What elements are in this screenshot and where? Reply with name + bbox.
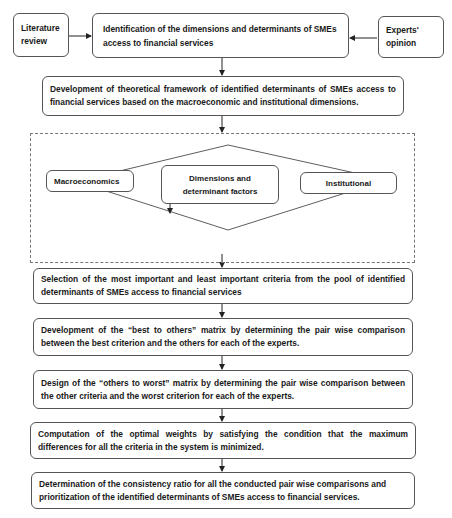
literature-review-label: Literature review: [21, 22, 61, 48]
institutional-box: Institutional: [300, 172, 397, 194]
experts-opinion-box: Experts' opinion: [378, 16, 444, 58]
macroeconomics-box: Macroeconomics: [46, 170, 134, 192]
identification-box: Identification of the dimensions and det…: [92, 13, 349, 58]
experts-opinion-label: Experts' opinion: [386, 24, 436, 50]
step-selection-label: Selection of the most important and leas…: [41, 273, 405, 299]
step-selection-box: Selection of the most important and leas…: [33, 268, 413, 304]
step-computation-box: Computation of the optimal weights by sa…: [30, 422, 416, 459]
macroeconomics-label: Macroeconomics: [54, 175, 126, 188]
dimensions-label: Dimensions and determinant factors: [169, 172, 271, 198]
framework-box: Development of theoretical framework of …: [42, 76, 404, 116]
step-others-to-worst-label: Design of the “others to worst” matrix b…: [41, 377, 405, 403]
step-best-to-others-label: Development of the “best to others” matr…: [41, 324, 405, 350]
step-computation-label: Computation of the optimal weights by sa…: [38, 428, 408, 454]
step-others-to-worst-box: Design of the “others to worst” matrix b…: [33, 370, 413, 409]
dimensions-box: Dimensions and determinant factors: [161, 165, 279, 204]
step-consistency-label: Determination of the consistency ratio f…: [39, 478, 407, 504]
step-consistency-box: Determination of the consistency ratio f…: [31, 472, 415, 509]
identification-label: Identification of the dimensions and det…: [103, 22, 341, 50]
institutional-label: Institutional: [308, 177, 389, 190]
framework-label: Development of theoretical framework of …: [50, 83, 396, 109]
literature-review-box: Literature review: [13, 13, 69, 57]
step-best-to-others-box: Development of the “best to others” matr…: [33, 318, 413, 356]
